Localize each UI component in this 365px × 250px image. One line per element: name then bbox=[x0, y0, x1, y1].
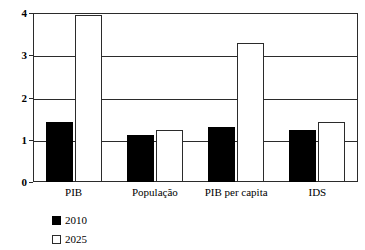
y-tick-label: 0 bbox=[22, 177, 28, 188]
bars-layer bbox=[33, 13, 358, 182]
filled-square-icon bbox=[52, 216, 61, 225]
legend-entry: 2025 bbox=[52, 230, 212, 249]
y-tick-label: 4 bbox=[22, 8, 28, 19]
bar-2010-PIB bbox=[46, 122, 73, 182]
chart-title bbox=[0, 0, 365, 2]
y-tick-label: 2 bbox=[22, 92, 28, 103]
bar-chart: 01234 PIBPopulaçãoPIB per capitaIDS 2010… bbox=[0, 0, 365, 250]
y-tick-label: 3 bbox=[22, 50, 28, 61]
x-tick-label: População bbox=[132, 186, 178, 198]
legend-label: 2010 bbox=[65, 215, 87, 226]
y-tick-mark bbox=[29, 182, 33, 183]
x-tick-label: PIB per capita bbox=[205, 186, 268, 198]
legend-label: 2025 bbox=[65, 234, 87, 245]
bar-2025-População bbox=[156, 130, 183, 182]
bar-2010-PIB per capita bbox=[208, 127, 235, 182]
bar-2025-IDS bbox=[318, 122, 345, 182]
bar-2025-PIB per capita bbox=[237, 43, 264, 182]
legend-entry: 2010 bbox=[52, 211, 212, 230]
x-axis: PIBPopulaçãoPIB per capitaIDS bbox=[33, 186, 358, 206]
y-axis: 01234 bbox=[0, 0, 33, 200]
bar-2010-IDS bbox=[289, 130, 316, 182]
x-tick-label: PIB bbox=[65, 186, 82, 198]
bar-2025-PIB bbox=[75, 15, 102, 182]
x-tick-label: IDS bbox=[309, 186, 327, 198]
hollow-square-icon bbox=[52, 235, 61, 244]
chart-legend: 20102025 bbox=[52, 211, 212, 249]
bar-2010-População bbox=[127, 135, 154, 182]
y-tick-label: 1 bbox=[22, 134, 28, 145]
